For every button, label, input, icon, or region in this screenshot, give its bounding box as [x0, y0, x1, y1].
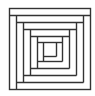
- log-cabin-pattern: [0, 0, 95, 96]
- outer-square: [10, 9, 91, 90]
